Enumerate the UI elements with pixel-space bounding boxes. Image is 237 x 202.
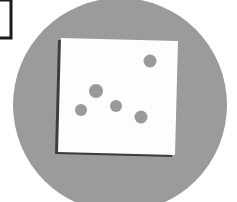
dot-3: [75, 104, 87, 116]
dot-2: [89, 84, 103, 98]
illustration-svg: [0, 0, 237, 202]
white-card-shape: [58, 38, 178, 155]
corner-frame-shape: [0, 0, 11, 38]
dot-4: [110, 100, 122, 112]
dot-1: [144, 55, 157, 68]
dot-5: [135, 111, 148, 124]
illustration-canvas: [0, 0, 237, 202]
